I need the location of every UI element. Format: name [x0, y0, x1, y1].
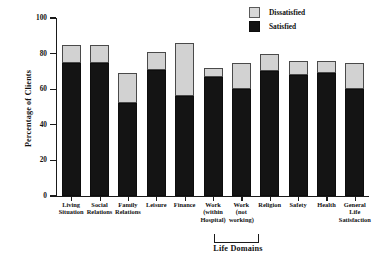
- bar-segment-dissatisfied: [175, 43, 194, 96]
- stacked-bar-chart: Percentage of Clients 020406080100 Livin…: [0, 0, 376, 262]
- y-tick-20: [50, 160, 56, 161]
- y-tick-0: [50, 195, 56, 196]
- work-group-bracket: [214, 234, 259, 243]
- bar-column: [62, 18, 81, 196]
- satisfied-swatch-icon: [249, 21, 260, 32]
- bar-segment-dissatisfied: [317, 61, 336, 73]
- bar-segment-satisfied: [204, 77, 223, 196]
- legend-label-dissatisfied: Dissatisfied: [269, 8, 305, 17]
- x-axis-title: Life Domains: [188, 244, 288, 253]
- bar-segment-dissatisfied: [289, 61, 308, 75]
- bar-segment-satisfied: [317, 73, 336, 196]
- dissatisfied-swatch-icon: [249, 7, 260, 18]
- bar-segment-satisfied: [147, 70, 166, 196]
- bar-column: [345, 18, 364, 196]
- bar-segment-dissatisfied: [204, 68, 223, 77]
- x-category-label: GeneralLifeSatisfaction: [337, 201, 373, 223]
- plot-area: [57, 18, 369, 196]
- x-label-line: (not: [223, 208, 259, 215]
- bar-segment-satisfied: [90, 63, 109, 197]
- y-tick-100: [50, 17, 56, 18]
- bar-column: [232, 18, 251, 196]
- y-tick-label-80: 80: [28, 50, 47, 57]
- x-label-line: General: [337, 201, 373, 208]
- bar-segment-dissatisfied: [90, 45, 109, 63]
- bar-column: [118, 18, 137, 196]
- y-tick-80: [50, 53, 56, 54]
- bar-column: [147, 18, 166, 196]
- bar-column: [204, 18, 223, 196]
- y-tick-label-20: 20: [28, 156, 47, 163]
- y-tick-label-0: 0: [28, 192, 47, 199]
- y-tick-label-100: 100: [28, 14, 47, 21]
- bar-segment-satisfied: [232, 89, 251, 196]
- bar-column: [90, 18, 109, 196]
- bar-segment-satisfied: [260, 71, 279, 196]
- y-tick-60: [50, 89, 56, 90]
- bar-column: [289, 18, 308, 196]
- bar-column: [317, 18, 336, 196]
- bar-segment-satisfied: [345, 89, 364, 196]
- bar-segment-dissatisfied: [260, 54, 279, 72]
- bar-segment-satisfied: [289, 75, 308, 196]
- bar-segment-satisfied: [62, 63, 81, 197]
- bar-segment-satisfied: [175, 96, 194, 196]
- bar-column: [175, 18, 194, 196]
- x-label-line: working): [223, 216, 259, 223]
- y-tick-40: [50, 124, 56, 125]
- x-label-line: Satisfaction: [337, 216, 373, 223]
- bar-segment-dissatisfied: [147, 52, 166, 70]
- y-tick-label-40: 40: [28, 121, 47, 128]
- x-label-line: Relations: [110, 208, 146, 215]
- x-label-line: Life: [337, 208, 373, 215]
- bar-segment-dissatisfied: [345, 63, 364, 90]
- bar-segment-dissatisfied: [62, 45, 81, 63]
- y-tick-label-60: 60: [28, 85, 47, 92]
- bar-column: [260, 18, 279, 196]
- legend-label-satisfied: Satisfied: [269, 22, 296, 31]
- bar-segment-satisfied: [118, 103, 137, 196]
- bar-segment-dissatisfied: [232, 63, 251, 90]
- bar-segment-dissatisfied: [118, 73, 137, 103]
